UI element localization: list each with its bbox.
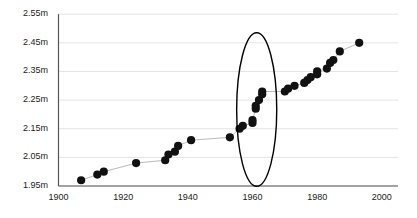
y-axis-tick-label: 2.55m	[2, 8, 48, 18]
y-axis-tick-label: 2.05m	[2, 151, 48, 161]
data-point	[100, 168, 108, 176]
data-point	[226, 133, 234, 141]
data-point	[248, 116, 256, 124]
x-axis-tick-label: 1940	[168, 192, 208, 202]
gridlines-group	[59, 14, 399, 186]
y-axis-tick-label: 2.15m	[2, 123, 48, 133]
chart-plot-area	[0, 0, 417, 218]
data-point	[239, 122, 247, 130]
series-connector-line	[81, 43, 359, 180]
data-point	[132, 159, 140, 167]
data-point	[329, 56, 337, 64]
data-point	[258, 87, 266, 95]
data-point	[187, 136, 195, 144]
data-point	[355, 39, 363, 47]
data-point	[77, 176, 85, 184]
y-axis-tick-label: 2.35m	[2, 65, 48, 75]
x-axis-tick-label: 1900	[39, 192, 79, 202]
data-points-group	[77, 39, 363, 185]
x-axis-tick-label: 1920	[103, 192, 143, 202]
y-axis-tick-label: 2.25m	[2, 94, 48, 104]
data-point	[174, 142, 182, 150]
x-axis-tick-label: 1980	[297, 192, 337, 202]
connector-line	[81, 43, 359, 180]
y-axis-tick-label: 1.95m	[2, 180, 48, 190]
data-point	[313, 67, 321, 75]
x-axis-tick-label: 1960	[233, 192, 273, 202]
data-point	[290, 82, 298, 90]
chart-container: 1.95m2.05m2.15m2.25m2.35m2.45m2.55m 1900…	[0, 0, 417, 218]
x-axis-tick-label: 2000	[362, 192, 402, 202]
data-point	[336, 47, 344, 55]
y-axis-tick-label: 2.45m	[2, 37, 48, 47]
